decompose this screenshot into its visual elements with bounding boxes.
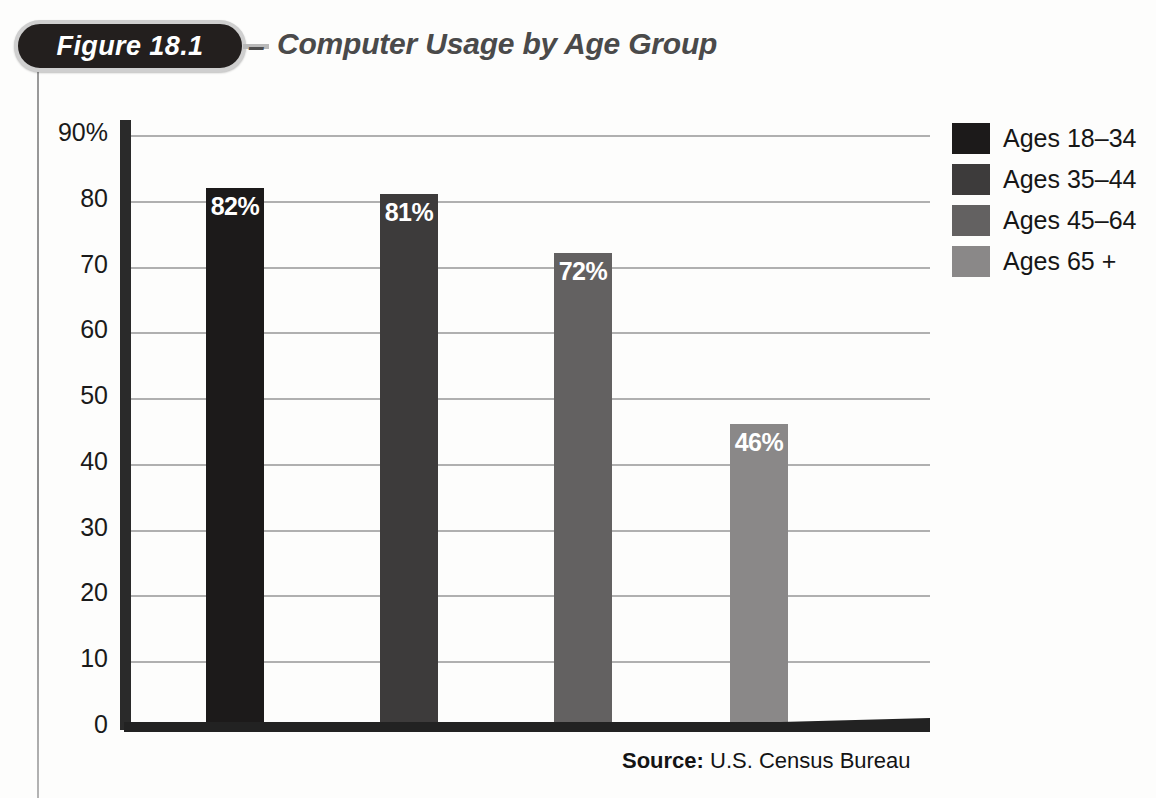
legend-item: Ages 65 +: [952, 241, 1156, 282]
page-margin-rule: [37, 72, 39, 798]
legend-swatch: [952, 164, 990, 195]
y-axis-tick-label: 0: [28, 710, 108, 739]
bar-value-label: 72%: [554, 257, 612, 286]
chart-legend: Ages 18–34Ages 35–44Ages 45–64Ages 65 +: [952, 118, 1156, 282]
figure-number-badge: Figure 18.1: [14, 20, 246, 72]
legend-swatch: [952, 123, 990, 154]
legend-item: Ages 35–44: [952, 159, 1156, 200]
bar: 72%: [554, 253, 612, 727]
bar-value-label: 82%: [206, 192, 264, 221]
bar-value-label: 46%: [730, 428, 788, 457]
y-axis-tick-label: 90%: [28, 118, 108, 147]
chart-bars: 82%81%72%46%: [130, 122, 930, 727]
y-axis-tick-label: 60: [28, 315, 108, 344]
legend-label: Ages 35–44: [1003, 165, 1136, 194]
y-axis-tick-label: 70: [28, 250, 108, 279]
bar: 81%: [380, 194, 438, 727]
legend-label: Ages 45–64: [1003, 206, 1136, 235]
source-value: U.S. Census Bureau: [704, 748, 911, 773]
y-axis-tick-label: 40: [28, 447, 108, 476]
figure-container: Figure 18.1 – Computer Usage by Age Grou…: [0, 0, 1156, 798]
y-axis-tick-label: 50: [28, 381, 108, 410]
figure-header: Figure 18.1 – Computer Usage by Age Grou…: [0, 0, 1156, 96]
legend-label: Ages 65 +: [1003, 247, 1116, 276]
y-axis-tick-label: 10: [28, 644, 108, 673]
bar: 46%: [730, 424, 788, 727]
legend-swatch: [952, 246, 990, 277]
legend-item: Ages 18–34: [952, 118, 1156, 159]
figure-number-label: Figure 18.1: [57, 31, 204, 62]
y-axis-tick-label: 30: [28, 513, 108, 542]
bar: 82%: [206, 188, 264, 727]
figure-title: Computer Usage by Age Group: [277, 27, 717, 61]
y-axis-tick-label: 20: [28, 578, 108, 607]
title-dash: –: [248, 30, 265, 64]
y-axis-tick-label: 80: [28, 184, 108, 213]
legend-label: Ages 18–34: [1003, 124, 1136, 153]
legend-swatch: [952, 205, 990, 236]
bar-value-label: 81%: [380, 198, 438, 227]
source-label: Source:: [622, 748, 704, 773]
legend-item: Ages 45–64: [952, 200, 1156, 241]
source-note: Source: U.S. Census Bureau: [622, 748, 911, 774]
y-axis-line: [120, 120, 131, 730]
